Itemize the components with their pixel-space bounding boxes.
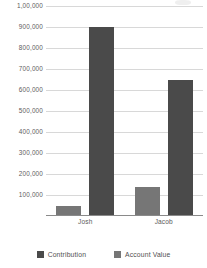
legend-swatch-icon: [37, 251, 44, 258]
y-axis-tick-label: 100,000: [19, 192, 43, 198]
y-axis-tick-label: 900,000: [19, 24, 43, 30]
legend-label: Account Value: [125, 251, 170, 258]
x-axis-line: [46, 215, 203, 217]
bar-chart: 100,000200,000300,000400,000500,000600,0…: [0, 0, 207, 268]
y-axis-tick-label: 200,000: [19, 171, 43, 177]
y-axis-tick-labels: 100,000200,000300,000400,000500,000600,0…: [0, 6, 46, 234]
y-axis-tick-label: 1,00,000: [17, 3, 43, 9]
legend-label: Contribution: [48, 251, 86, 258]
bar-group: [125, 6, 204, 216]
y-axis-tick-label: 600,000: [19, 87, 43, 93]
x-axis-tick-labels: JoshJacob: [46, 218, 203, 232]
chart-legend: ContributionAccount Value: [0, 246, 207, 262]
bar-contribution: [89, 27, 114, 216]
y-axis-tick-label: 400,000: [19, 129, 43, 135]
legend-swatch-icon: [114, 251, 121, 258]
y-axis-tick-label: 300,000: [19, 150, 43, 156]
bars-layer: [46, 6, 203, 216]
y-axis-tick-label: 800,000: [19, 45, 43, 51]
legend-item[interactable]: Account Value: [114, 251, 170, 258]
plot-area: 100,000200,000300,000400,000500,000600,0…: [0, 6, 207, 234]
bar-contribution: [168, 80, 193, 217]
y-axis-tick-label: 700,000: [19, 66, 43, 72]
y-axis-tick-label: 500,000: [19, 108, 43, 114]
bar-account-value: [135, 187, 160, 216]
scan-artifact: [175, 0, 191, 5]
x-axis-tick-label: Jacob: [155, 218, 173, 225]
bar-group: [46, 6, 125, 216]
x-axis-tick-label: Josh: [78, 218, 92, 225]
legend-item[interactable]: Contribution: [37, 251, 86, 258]
grid-area: [46, 6, 203, 216]
